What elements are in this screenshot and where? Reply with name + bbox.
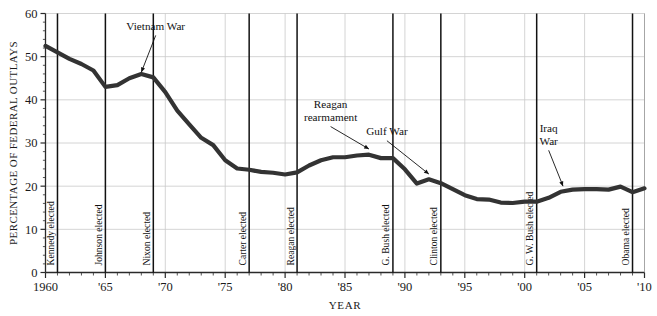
x-tick-label-75: '75 [218,280,233,294]
x-tick-label-10: '10 [637,280,652,294]
event-line-labels: Kennedy electedJohnson electedNixon elec… [45,191,631,265]
federal-outlays-line-chart: 0102030405060 1960'65'70'75'80'85'90'95'… [0,0,657,316]
x-tick-label-80: '80 [278,280,293,294]
chart-figure: 0102030405060 1960'65'70'75'80'85'90'95'… [0,0,657,316]
event-label-nixon-elected: Nixon elected [141,212,152,266]
x-tick-label-95: '95 [457,280,472,294]
y-axis-tick-labels: 0102030405060 [25,7,38,280]
annotation-leader-iraq-war [549,150,563,186]
y-tick-label-20: 20 [25,180,38,194]
x-tick-label-00: '00 [517,280,532,294]
x-tick-label-85: '85 [338,280,353,294]
event-label-carter-elected: Carter elected [237,212,248,266]
y-tick-label-60: 60 [25,7,38,21]
annotation-leader-reagan-rearmament [331,127,369,149]
event-label-reagan-elected: Reagan elected [285,207,296,266]
y-tick-label-50: 50 [25,50,38,64]
x-tick-label-90: '90 [398,280,413,294]
y-tick-label-30: 30 [25,136,38,150]
y-tick-label-40: 40 [25,93,38,107]
annotation-label-reagan-rearmament: Reaganrearmament [304,98,358,123]
y-axis-title: PERCENTAGE OF FEDERAL OUTLAYS [7,41,19,245]
event-label-kennedy-elected: Kennedy elected [45,201,56,265]
annotation-label-iraq-war: IraqWar [539,122,558,147]
x-tick-label-1960: 1960 [33,280,58,294]
event-label-g-bush-elected: G. Bush elected [380,204,391,265]
event-label-clinton-elected: Clinton elected [428,207,439,266]
x-tick-label-05: '05 [577,280,592,294]
y-tick-label-0: 0 [31,266,37,280]
annotation-label-gulf-war: Gulf War [366,125,408,137]
event-label-johnson-elected: Johnson elected [93,204,104,265]
annotation-arrowhead-iraq-war [559,181,563,186]
x-tick-label-65: '65 [98,280,113,294]
y-tick-label-10: 10 [25,223,38,237]
x-axis-title: YEAR [329,299,361,311]
x-axis-tick-labels: 1960'65'70'75'80'85'90'95'00'05'10 [33,280,652,294]
event-label-obama-elected: Obama elected [620,208,631,265]
x-axis-ticks [46,273,645,279]
annotation-label-vietnam-war: Vietnam War [126,20,185,32]
x-tick-label-70: '70 [158,280,173,294]
